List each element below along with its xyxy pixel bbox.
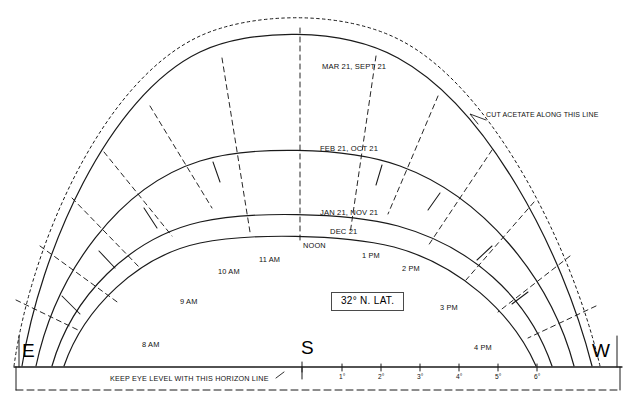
hourline-9am — [104, 152, 172, 236]
hourtick-2pm — [428, 193, 440, 210]
hourline-8am — [72, 198, 140, 268]
degree-mark-3: 3° — [417, 374, 424, 381]
hourtick-4pm — [512, 292, 528, 304]
curve-mar-sept — [22, 34, 592, 366]
curve-feb-oct — [36, 150, 574, 366]
degree-mark-1: 1° — [339, 374, 346, 381]
label-keep-eye-level: KEEP EYE LEVEL WITH THIS HORIZON LINE — [110, 375, 269, 382]
hourtick-11am — [213, 162, 220, 182]
hourtick-9am — [99, 251, 115, 268]
label-4pm: 4 PM — [474, 344, 492, 351]
label-cut-acetate: CUT ACETATE ALONG THIS LINE — [486, 111, 598, 118]
compass-east: E — [22, 341, 35, 360]
hourline-3pm — [428, 150, 492, 246]
hourline-5pm — [498, 256, 570, 312]
degree-mark-5: 5° — [495, 374, 502, 381]
label-feb-oct: FEB 21, OCT 21 — [320, 145, 378, 153]
hourtick-10am — [144, 208, 157, 228]
label-11am: 11 AM — [259, 256, 280, 263]
degree-mark-2: 2° — [378, 374, 385, 381]
hourtick-8am — [62, 296, 80, 314]
diagram-canvas — [0, 0, 636, 411]
hourline-11am — [222, 58, 250, 232]
cut-acetate-curve — [14, 18, 600, 366]
latitude-box: 32° N. LAT. — [331, 292, 404, 311]
compass-south: S — [301, 338, 314, 357]
label-8am: 8 AM — [142, 341, 159, 348]
compass-west: W — [592, 341, 610, 360]
degree-mark-4: 4° — [456, 374, 463, 381]
label-10am: 10 AM — [218, 268, 240, 275]
label-noon: NOON — [303, 242, 326, 249]
label-1pm: 1 PM — [362, 252, 380, 259]
hourline-10am — [150, 106, 212, 208]
label-9am: 9 AM — [180, 298, 197, 305]
horizon-leader-hook — [276, 372, 284, 378]
hourtick-1pm — [376, 165, 382, 185]
hourline-2pm — [388, 96, 438, 214]
label-3pm: 3 PM — [440, 304, 458, 311]
degree-mark-6: 6° — [534, 374, 541, 381]
label-mar-sept: MAR 21, SEPT 21 — [322, 63, 386, 71]
label-2pm: 2 PM — [402, 265, 420, 272]
sun-path-diagram: MAR 21, SEPT 21 FEB 21, OCT 21 JAN 21, N… — [0, 0, 636, 411]
label-jan-nov: JAN 21, NOV 21 — [320, 209, 378, 217]
label-dec: DEC 21 — [330, 228, 358, 236]
hourline-6pm — [528, 306, 596, 338]
hourline-4pm — [466, 202, 534, 280]
